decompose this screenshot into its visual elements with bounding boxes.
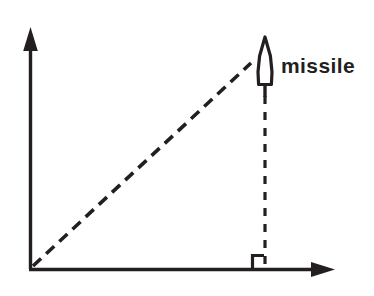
figure-canvas: missile: [0, 0, 374, 296]
missile-trajectory-figure: missile: [0, 0, 374, 296]
missile-label: missile: [281, 54, 355, 77]
figure-background: [0, 0, 374, 296]
